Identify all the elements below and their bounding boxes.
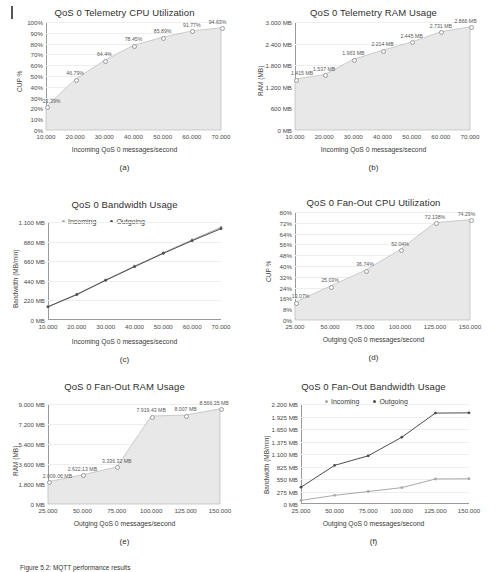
line-series (301, 413, 469, 487)
y-axis-tick: 550 MB (277, 476, 298, 483)
x-axis-label: Incoming QoS 0 messages/second (0, 146, 249, 153)
subcaption: (e) (0, 537, 249, 546)
chart-canvas (48, 404, 220, 504)
x-axis-tick: 30.000 (344, 133, 363, 140)
x-axis-tick: 20.000 (66, 133, 85, 140)
data-point-marker (434, 412, 437, 415)
data-point-label: 7.919.43 MB (136, 407, 165, 413)
y-axis-tick: 7.200 MB (19, 421, 45, 428)
data-point-marker (434, 478, 437, 481)
data-point-label: 74.29% (458, 211, 476, 217)
plot-area: 80%72%64%56%48%40%32%24%16%8%0%25.00050.… (295, 212, 470, 320)
data-point-label: 85.89% (154, 28, 172, 34)
x-axis-tick: 40.000 (373, 133, 392, 140)
y-axis-tick: 5.400 MB (19, 441, 45, 448)
x-axis-tick: 50.000 (321, 323, 340, 330)
data-point-marker (468, 411, 471, 414)
x-axis-tick: 50.000 (73, 507, 92, 514)
y-axis-tick: 220 MB (24, 297, 45, 304)
data-point-label: 64.4% (97, 51, 112, 57)
x-axis-tick: 30.000 (95, 133, 114, 140)
x-axis-tick: 125.000 (174, 507, 196, 514)
data-point-marker (75, 293, 78, 296)
x-axis-tick: 70.000 (212, 323, 231, 330)
x-axis-tick: 60.000 (182, 133, 201, 140)
y-axis-tick: 80% (31, 40, 43, 47)
x-axis-tick: 25.000 (292, 507, 311, 514)
y-axis-tick: 40% (31, 83, 43, 90)
x-axis-tick: 20.000 (67, 323, 86, 330)
y-axis-tick: 60% (31, 62, 43, 69)
data-point-label: 1.963 MB (342, 50, 364, 56)
x-axis-tick: 50.000 (325, 507, 344, 514)
y-axis-tick: 2.200 MB (272, 401, 298, 408)
y-axis-tick: 16% (280, 295, 292, 302)
y-axis-tick: 3.600 MB (19, 461, 45, 468)
chart-grid: QoS 0 Telemetry CPU Utilization CUP % 10… (0, 0, 498, 555)
data-point-marker (220, 26, 225, 31)
y-axis-tick: 1.800 MB (266, 62, 292, 69)
data-point-label: 2.009.06 MB (43, 473, 72, 479)
x-axis-label: Outging QoS 0 messages/second (249, 520, 498, 527)
area-series (295, 220, 470, 320)
data-point-marker (333, 464, 336, 467)
data-point-label: 2.731 MB (430, 23, 452, 29)
data-point-label: 46.79% (66, 70, 84, 76)
data-point-marker (300, 486, 303, 489)
data-point-label: 25.03% (321, 277, 339, 283)
data-point-marker (400, 486, 403, 489)
y-axis-tick: 70% (31, 51, 43, 58)
x-axis-tick: 25.000 (286, 323, 305, 330)
x-axis-tick: 125.000 (424, 323, 446, 330)
y-axis-tick: 30% (31, 94, 43, 101)
x-axis-tick: 150.000 (209, 507, 231, 514)
chart-panel-d: QoS 0 Fan-Out CPU Utilization CUP % 80%7… (249, 190, 498, 380)
chart-title: QoS 0 Telemetry RAM Usage (249, 7, 498, 18)
data-point-marker (219, 407, 224, 412)
y-axis-tick: 10% (31, 116, 43, 123)
y-axis-tick: 56% (280, 241, 292, 248)
y-axis-tick: 72% (280, 219, 292, 226)
data-point-marker (133, 265, 136, 268)
y-axis-tick: 100% (27, 19, 43, 26)
line-series (301, 479, 469, 501)
x-axis-tick: 40.000 (125, 323, 144, 330)
chart-title: QoS 0 Fan-Out RAM Usage (0, 381, 249, 392)
x-axis-label: Outging QoS 0 messages/second (0, 520, 249, 527)
x-axis-tick: 50.000 (153, 133, 172, 140)
x-axis-tick: 60.000 (431, 133, 450, 140)
chart-canvas (301, 404, 469, 504)
data-point-marker (104, 279, 107, 282)
y-axis-tick: 1.650 MB (272, 426, 298, 433)
data-point-marker (184, 414, 189, 419)
data-point-label: 2.445 MB (401, 33, 423, 39)
x-axis-tick: 20.000 (315, 133, 334, 140)
y-axis-tick: 1.375 MB (272, 438, 298, 445)
data-point-marker (367, 490, 370, 493)
x-axis-tick: 75.000 (356, 323, 375, 330)
x-axis-label: Outging QoS 0 messages/second (249, 336, 498, 343)
x-axis-tick: 10.000 (39, 323, 58, 330)
subcaption: (b) (249, 163, 498, 172)
x-axis-tick: 100.000 (391, 507, 413, 514)
y-axis-label: Bandwidth (MB/min) (263, 435, 270, 494)
data-point-marker (47, 305, 50, 308)
data-point-label: 52.04% (391, 241, 409, 247)
data-point-marker (294, 301, 299, 306)
data-point-label: 3.336.32 MB (102, 458, 131, 464)
data-point-marker (220, 227, 223, 230)
y-axis-tick: 600 MB (271, 105, 292, 112)
x-axis-tick: 30.000 (96, 323, 115, 330)
y-axis-tick: 64% (280, 230, 292, 237)
y-axis-tick: 80% (280, 209, 292, 216)
x-axis-tick: 150.000 (459, 323, 481, 330)
y-axis-tick: 2.400 MB (266, 40, 292, 47)
y-axis-tick: 1.200 MB (266, 83, 292, 90)
y-axis-label: CUP % (16, 71, 23, 92)
chart-title: QoS 0 Telemetry CPU Utilization (0, 7, 249, 18)
x-axis-tick: 70.000 (461, 133, 480, 140)
x-axis-tick: 60.000 (183, 323, 202, 330)
y-axis-tick: 24% (280, 284, 292, 291)
figure-caption: Figure 5.2: MQTT performance results (20, 564, 480, 572)
data-point-label: 36.74% (356, 261, 374, 267)
